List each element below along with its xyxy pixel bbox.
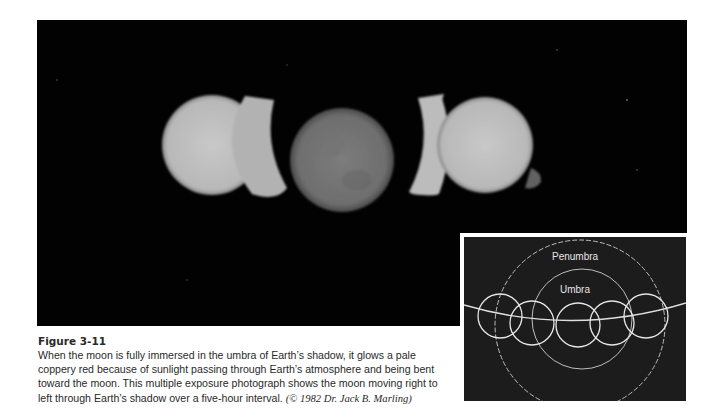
figure-label: Figure 3-11 xyxy=(38,334,448,348)
figure-caption: Figure 3-11 When the moon is fully immer… xyxy=(38,334,448,406)
umbra-label: Umbra xyxy=(560,284,590,295)
moon-left-full xyxy=(162,95,287,197)
penumbra-label: Penumbra xyxy=(552,251,598,262)
shadow-diagram-inset: Penumbra Umbra xyxy=(460,233,690,405)
moon-right-full xyxy=(409,94,541,195)
moon-path xyxy=(464,303,686,321)
caption-body: When the moon is fully immersed in the u… xyxy=(38,348,448,406)
photo-credit: (© 1982 Dr. Jack B. Marling) xyxy=(286,393,412,404)
moon-eclipsed xyxy=(290,108,394,212)
